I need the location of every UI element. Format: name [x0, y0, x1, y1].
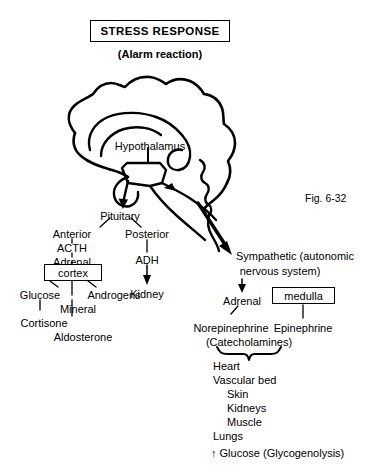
sympathetic-label-line2: nervous system)	[240, 265, 321, 277]
aldosterone-label: Aldosterone	[54, 331, 113, 343]
posterior-label: Posterior	[125, 228, 169, 240]
glucose-label: Glucose	[20, 289, 60, 301]
cortisone-label: Cortisone	[20, 317, 67, 329]
adrenal-cortex-box: cortex	[44, 264, 102, 281]
catecholamines-label: (Catecholamines)	[206, 336, 292, 348]
adrenal-medulla-box: medulla	[272, 287, 335, 304]
target-item-lungs: Lungs	[213, 430, 243, 442]
epinephrine-label: Epinephrine	[274, 322, 333, 334]
adrenal-medulla-label: Adrenal	[223, 295, 261, 307]
norepinephrine-label: Norepinephrine	[193, 322, 268, 334]
pituitary-label: Pituitary	[100, 210, 140, 222]
target-item-skin: Skin	[227, 388, 248, 400]
figure-number: Fig. 6-32	[305, 192, 346, 204]
sympathetic-label-line1: Sympathetic (autonomic	[236, 250, 354, 262]
anterior-label: Anterior	[53, 228, 92, 240]
target-item-heart: Heart	[213, 360, 240, 372]
adh-label: ADH	[135, 254, 158, 266]
glycogenolysis-label: ↑ Glucose (Glycogenolysis)	[211, 447, 344, 459]
medulla-label: medulla	[284, 290, 323, 302]
stress-response-figure: STRESS RESPONSE (Alarm reaction) Fig. 6-…	[0, 0, 380, 476]
title-box: STRESS RESPONSE	[90, 20, 230, 42]
target-item-vascular-bed: Vascular bed	[213, 374, 276, 386]
target-item-muscle: Muscle	[227, 416, 262, 428]
figure-subtitle: (Alarm reaction)	[118, 48, 202, 60]
acth-label: ACTH	[57, 242, 87, 254]
hypothalamus-label: Hypothalamus	[115, 140, 185, 152]
mineral-label: Mineral	[60, 303, 96, 315]
figure-title: STRESS RESPONSE	[100, 25, 219, 37]
kidney-label: Kidney	[130, 288, 164, 300]
cortex-label: cortex	[58, 267, 88, 279]
target-item-kidneys: Kidneys	[227, 402, 266, 414]
